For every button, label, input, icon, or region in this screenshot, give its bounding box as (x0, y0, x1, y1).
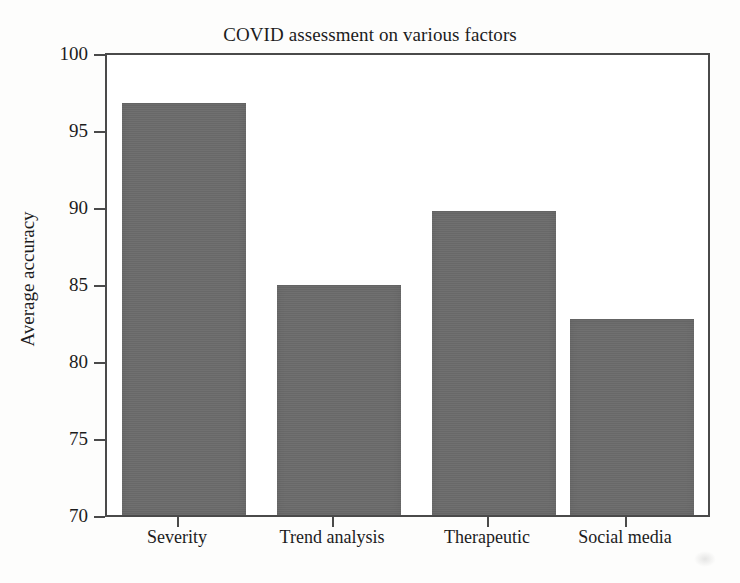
y-tick-mark (94, 516, 105, 518)
y-tick-mark (94, 439, 105, 441)
x-tick-label-social-media: Social media (545, 527, 705, 548)
y-tick-label: 85 (40, 274, 88, 296)
y-axis-title: Average accuracy (17, 169, 39, 389)
y-tick-label: 95 (40, 120, 88, 142)
y-tick-label: 100 (40, 43, 88, 65)
x-tick-mark (625, 517, 627, 527)
y-tick-label: 75 (40, 428, 88, 450)
chart-figure: COVID assessment on various factors Aver… (0, 0, 740, 583)
y-tick-label: 70 (40, 505, 88, 527)
plot-area (105, 53, 710, 517)
y-tick-label: 90 (40, 197, 88, 219)
y-tick-mark (94, 54, 105, 56)
chart-title: COVID assessment on various factors (0, 24, 740, 46)
y-tick-label: 80 (40, 351, 88, 373)
x-tick-label-trend-analysis: Trend analysis (252, 527, 412, 548)
x-tick-mark (332, 517, 334, 527)
scan-artifact (694, 551, 716, 567)
y-tick-mark (94, 131, 105, 133)
x-tick-mark (177, 517, 179, 527)
y-tick-mark (94, 208, 105, 210)
y-tick-mark (94, 362, 105, 364)
bar-trend-analysis (277, 285, 401, 515)
bar-severity (122, 103, 246, 515)
x-tick-mark (487, 517, 489, 527)
y-tick-mark (94, 285, 105, 287)
bar-series (107, 55, 708, 515)
bar-social-media (570, 319, 694, 515)
x-tick-label-severity: Severity (97, 527, 257, 548)
x-tick-label-therapeutic: Therapeutic (407, 527, 567, 548)
bar-therapeutic (432, 211, 556, 515)
